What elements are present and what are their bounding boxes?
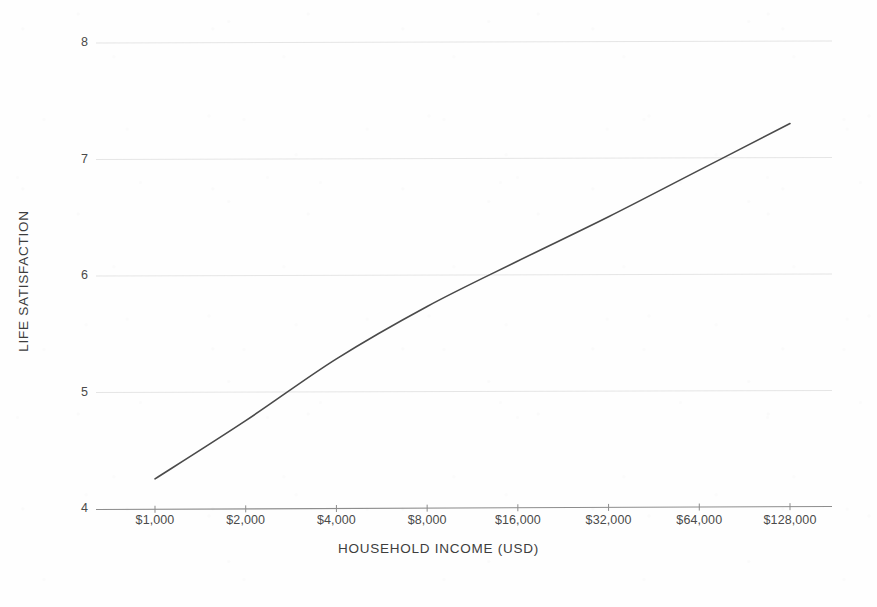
y-tick-label-6: 6 [62, 268, 88, 282]
y-axis-title: LIFE SATISFACTION [16, 176, 31, 386]
x-tick-label-8000: $8,000 [408, 513, 447, 527]
y-tick-label-7: 7 [62, 152, 88, 166]
gridline-y-8 [96, 41, 832, 43]
gridline-y-4 [96, 507, 832, 510]
x-tick-label-128000: $128,000 [764, 513, 817, 527]
x-tick-label-64000: $64,000 [676, 513, 722, 527]
y-tick-label-5: 5 [62, 385, 88, 399]
y-tick-label-8: 8 [62, 35, 88, 49]
x-tick-label-1000: $1,000 [136, 513, 175, 527]
y-tick-label-4: 4 [62, 501, 88, 515]
gridlines-group [96, 41, 832, 510]
x-tick-label-32000: $32,000 [586, 513, 632, 527]
x-tick-label-4000: $4,000 [317, 513, 356, 527]
gridline-y-5 [96, 391, 832, 393]
x-axis-title: HOUSEHOLD INCOME (USD) [0, 541, 877, 556]
data-series-group [155, 124, 790, 479]
series-line-life-satisfaction [155, 124, 790, 479]
gridline-y-6 [96, 274, 832, 276]
chart-page: 87654 $1,000$2,000$4,000$8,000$16,000$32… [0, 0, 877, 607]
x-tick-label-2000: $2,000 [226, 513, 265, 527]
x-tick-label-16000: $16,000 [495, 513, 541, 527]
